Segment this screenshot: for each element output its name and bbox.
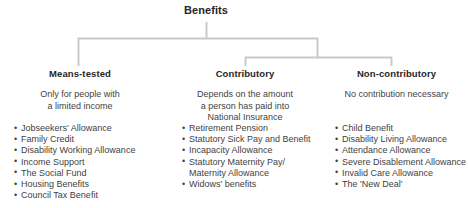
list-item: Incapacity Allowance (182, 145, 311, 156)
list-item: The Social Fund (14, 168, 135, 179)
list-item: Family Credit (14, 134, 135, 145)
list-item: Statutory Maternity Pay/Maternity Allowa… (182, 157, 311, 179)
description-line: a person has paid into (160, 101, 330, 113)
list-item: The 'New Deal' (335, 179, 466, 190)
list-item: Severe Disablement Allowance (335, 157, 466, 168)
branch-heading-means-tested: Means-tested (0, 68, 160, 80)
description-line: Only for people with (0, 89, 160, 101)
list-item: Housing Benefits (14, 179, 135, 190)
list-item: Council Tax Benefit (14, 190, 135, 201)
benefit-list-non-contributory: Child Benefit Disability Living Allowanc… (335, 123, 466, 190)
benefit-list-contributory: Retirement Pension Statutory Sick Pay an… (182, 123, 311, 190)
list-item: Disability Working Allowance (14, 145, 135, 156)
branch-means-tested: Means-tested Only for people with a limi… (0, 68, 160, 112)
root-node-label: Benefits (146, 4, 266, 16)
list-item: Statutory Sick Pay and Benefit (182, 134, 311, 145)
branch-contributory: Contributory Depends on the amount a per… (160, 68, 330, 124)
list-item: Jobseekers' Allowance (14, 123, 135, 134)
description-line: No contribution necessary (325, 89, 468, 101)
branch-heading-non-contributory: Non-contributory (325, 68, 468, 80)
description-line: a limited income (0, 101, 160, 113)
list-item: Widows' benefits (182, 179, 311, 190)
benefit-list-means-tested: Jobseekers' Allowance Family Credit Disa… (14, 123, 135, 201)
branch-description-means-tested: Only for people with a limited income (0, 89, 160, 112)
list-item: Retirement Pension (182, 123, 311, 134)
branch-heading-contributory: Contributory (160, 68, 330, 80)
branch-description-contributory: Depends on the amount a person has paid … (160, 89, 330, 124)
list-item: Disability Living Allowance (335, 134, 466, 145)
branch-description-non-contributory: No contribution necessary (325, 89, 468, 101)
list-item-continuation: Maternity Allowance (189, 168, 311, 179)
list-item: Attendance Allowance (335, 145, 466, 156)
list-item: Income Support (14, 157, 135, 168)
benefits-tree-diagram: Benefits Means-tested Only for people wi… (0, 0, 468, 208)
list-item-text: Statutory Maternity Pay/ (189, 157, 285, 167)
branch-non-contributory: Non-contributory No contribution necessa… (325, 68, 468, 101)
description-line: National Insurance (160, 112, 330, 124)
list-item: Child Benefit (335, 123, 466, 134)
list-item: Invalid Care Allowance (335, 168, 466, 179)
description-line: Depends on the amount (160, 89, 330, 101)
